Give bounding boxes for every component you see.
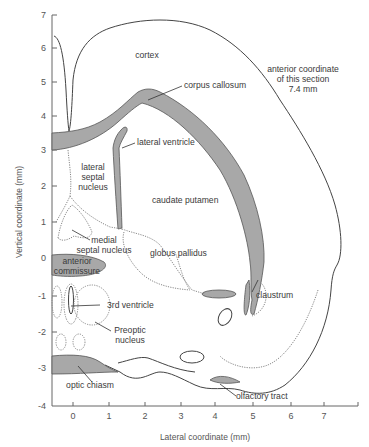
- brain-section-diagram: 7 6 5 4 3 2 1 0 -1 -2 -3 -4 Vertical coo…: [0, 0, 369, 447]
- label-globus-pallidus: globus pallidus: [150, 248, 207, 258]
- label-optic-chiasm: optic chiasm: [66, 380, 114, 390]
- label-preoptic-2: nucleus: [115, 335, 145, 345]
- lateral-ventricle: [113, 127, 127, 229]
- label-corpus-callosum: corpus callosum: [184, 80, 246, 90]
- label-medial-septal-1: medial: [91, 235, 116, 245]
- small-oval-a: [56, 334, 66, 350]
- claustrum: [244, 280, 250, 315]
- label-preoptic-1: Preoptic: [114, 325, 146, 335]
- label-cortex: cortex: [135, 50, 159, 60]
- lateral-ventricle-leader: [122, 143, 135, 148]
- x-axis: 0 1 2 3 4 5 6 7 Lateral coordinate (mm): [52, 402, 358, 442]
- left-preoptic-outline: [52, 286, 62, 318]
- section-note-line1: anterior coordinate: [267, 64, 339, 74]
- lateral-olfactory-nucleus: [202, 290, 236, 298]
- y-tick-label: -3: [38, 363, 46, 373]
- optic-chiasm: [52, 355, 118, 374]
- section-note-line3: 7.4 mm: [289, 84, 318, 94]
- y-tick-label: 6: [41, 43, 46, 53]
- x-axis-title: Lateral coordinate (mm): [160, 432, 250, 442]
- label-lateral-septal-2: septal: [82, 172, 105, 182]
- y-tick-label: 2: [41, 181, 46, 191]
- x-tick-label: 3: [178, 411, 183, 421]
- label-lateral-septal-3: nucleus: [78, 182, 108, 192]
- small-nucleus-oval-2: [180, 351, 204, 363]
- x-tick-label: 7: [321, 411, 326, 421]
- globus-pallidus-outline: [122, 229, 205, 294]
- label-anterior-commissure-1: anterior: [62, 256, 91, 266]
- label-medial-septal-2: septal nucleus: [77, 245, 132, 255]
- olfactory-tract-region: [210, 376, 240, 383]
- x-tick-label: 0: [70, 411, 75, 421]
- label-lateral-ventricle: lateral ventricle: [137, 137, 195, 147]
- y-tick-label: 0: [41, 253, 46, 263]
- third-ventricle-outline: [64, 284, 78, 324]
- x-tick-label: 5: [250, 411, 255, 421]
- label-third-ventricle: 3rd ventricle: [107, 300, 154, 310]
- small-oval-b: [73, 334, 85, 350]
- x-tick-label: 1: [106, 411, 111, 421]
- ventral-surface: [118, 357, 195, 372]
- third-ventricle-leader: [71, 305, 100, 306]
- y-axis-title: Vertical coordinate (mm): [14, 166, 24, 258]
- y-tick-label: -1: [38, 291, 46, 301]
- small-nucleus-oval: [215, 306, 234, 328]
- preoptic-leader: [95, 322, 111, 331]
- external-capsule-line: [220, 290, 318, 368]
- x-tick-label: 6: [288, 411, 293, 421]
- label-claustrum: claustrum: [256, 290, 293, 300]
- label-lateral-septal-1: lateral: [81, 162, 104, 172]
- label-anterior-commissure-2: commissure: [54, 266, 101, 276]
- y-tick-label: -2: [38, 327, 46, 337]
- y-tick-label: -4: [38, 401, 46, 411]
- y-tick-label: 3: [41, 145, 46, 155]
- medial-septal-nucleus-outline: [58, 205, 92, 240]
- third-ventricle-shape: [69, 286, 74, 314]
- x-tick-label: 4: [212, 411, 217, 421]
- label-olfactory-tract: olfactory tract: [236, 391, 288, 401]
- olfactory-tract-leader: [220, 384, 236, 396]
- section-note-line2: of this section: [277, 74, 330, 84]
- y-tick-label: 1: [41, 217, 46, 227]
- x-tick-label: 2: [142, 411, 147, 421]
- y-axis: 7 6 5 4 3 2 1 0 -1 -2 -3 -4 Vertical coo…: [14, 10, 57, 411]
- y-tick-label: 4: [41, 111, 46, 121]
- medial-septal-leader: [72, 230, 90, 240]
- label-caudate-putamen: caudate putamen: [152, 195, 219, 205]
- y-tick-label: 5: [41, 77, 46, 87]
- y-tick-label: 7: [41, 10, 46, 20]
